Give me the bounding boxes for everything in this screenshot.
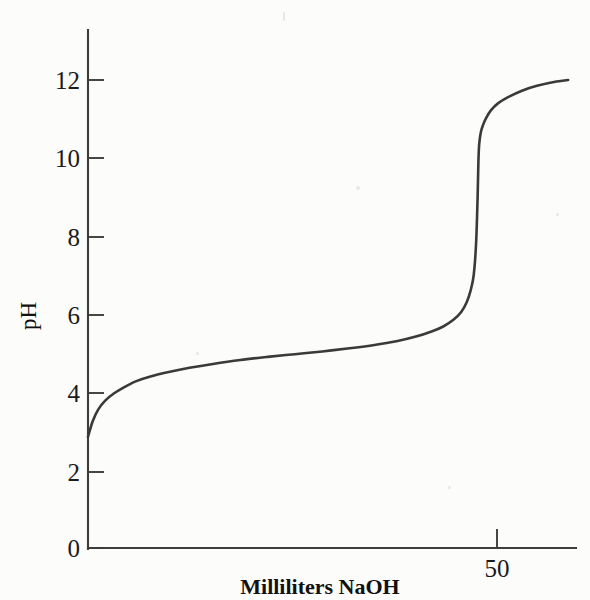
y-tick-label-2: 2 xyxy=(68,459,81,486)
scan-speck xyxy=(356,186,360,190)
y-axis-title: pH xyxy=(16,302,41,330)
scan-speck xyxy=(283,12,285,21)
x-tick-label-50: 50 xyxy=(485,555,510,582)
scan-speck xyxy=(448,486,451,489)
y-tick-label-6: 6 xyxy=(68,302,81,329)
scan-speck xyxy=(556,213,559,216)
y-tick-label-10: 10 xyxy=(55,145,80,172)
titration-curve-line xyxy=(88,80,568,437)
y-tick-label-8: 8 xyxy=(68,224,81,251)
scan-speck xyxy=(196,352,199,355)
y-axis-ticks xyxy=(88,80,104,548)
figure-page: 0 2 4 6 8 10 12 50 pH Milliliters NaOH xyxy=(0,0,590,600)
y-tick-label-0: 0 xyxy=(68,535,81,562)
x-axis-title: Milliliters NaOH xyxy=(240,574,399,599)
y-tick-label-12: 12 xyxy=(55,67,80,94)
y-axis-tick-labels: 0 2 4 6 8 10 12 xyxy=(55,67,81,562)
y-tick-label-4: 4 xyxy=(68,380,81,407)
titration-curve-chart: 0 2 4 6 8 10 12 50 pH Milliliters NaOH xyxy=(0,0,590,600)
